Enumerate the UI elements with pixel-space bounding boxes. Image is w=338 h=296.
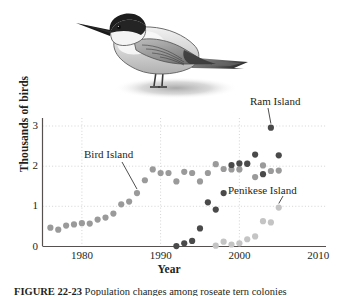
data-point <box>260 162 266 168</box>
data-point <box>213 206 219 212</box>
chart-gridlines <box>43 118 327 247</box>
data-point <box>228 241 234 247</box>
y-tick-1: 1 <box>28 199 38 211</box>
data-point <box>134 190 140 196</box>
data-point <box>55 227 61 233</box>
x-tick-2010: 2010 <box>304 249 332 261</box>
annotation-penikese-island: Penikese Island <box>228 184 297 196</box>
data-point <box>236 160 242 166</box>
data-point <box>213 161 219 167</box>
data-point <box>150 166 156 172</box>
data-point <box>197 225 203 231</box>
data-point <box>221 166 227 172</box>
data-point <box>236 166 242 172</box>
data-point <box>47 225 53 231</box>
data-point <box>205 170 211 176</box>
caption-number: FIGURE 22-23 <box>14 286 82 296</box>
data-point <box>268 168 274 174</box>
data-point <box>228 162 234 168</box>
data-point <box>118 201 124 207</box>
annotation-bird-island: Bird Island <box>84 148 133 160</box>
data-point <box>221 239 227 245</box>
data-point <box>197 178 203 184</box>
data-point <box>95 217 101 223</box>
data-point <box>189 170 195 176</box>
data-point <box>87 221 93 227</box>
data-point <box>205 199 211 205</box>
data-point <box>276 204 282 210</box>
figure-container: Thousands of birds Year 1980199020002010… <box>0 0 338 296</box>
data-point <box>252 233 258 239</box>
data-point <box>213 243 219 249</box>
data-point <box>236 240 242 246</box>
y-tick-3: 3 <box>28 119 38 131</box>
x-tick-2000: 2000 <box>225 249 253 261</box>
data-point <box>189 238 195 244</box>
data-point <box>71 221 77 227</box>
data-point <box>158 170 164 176</box>
leader-line <box>279 196 283 204</box>
data-point <box>268 219 274 225</box>
data-point <box>181 240 187 246</box>
data-point <box>276 152 282 158</box>
data-point <box>181 169 187 175</box>
data-point <box>165 170 171 176</box>
data-point <box>126 198 132 204</box>
figure-caption: FIGURE 22-23 Population changes among ro… <box>14 286 334 296</box>
data-point <box>252 174 258 180</box>
data-point <box>268 125 274 131</box>
data-point <box>260 171 266 177</box>
x-tick-1990: 1990 <box>147 249 175 261</box>
data-point <box>244 161 250 167</box>
leader-line <box>268 108 271 124</box>
data-point <box>252 151 258 157</box>
data-point <box>260 218 266 224</box>
annotation-ram-island: Ram Island <box>250 95 300 107</box>
x-axis-title: Year <box>0 263 338 275</box>
y-tick-0: 0 <box>28 240 38 252</box>
data-point <box>276 168 282 174</box>
data-point <box>221 190 227 196</box>
data-point <box>173 178 179 184</box>
data-point <box>63 223 69 229</box>
x-tick-1980: 1980 <box>68 249 96 261</box>
y-tick-2: 2 <box>28 159 38 171</box>
data-point <box>102 214 108 220</box>
data-point <box>244 236 250 242</box>
caption-text: Population changes among roseate tern co… <box>85 286 287 296</box>
data-point <box>79 220 85 226</box>
data-point <box>110 210 116 216</box>
data-point <box>142 177 148 183</box>
